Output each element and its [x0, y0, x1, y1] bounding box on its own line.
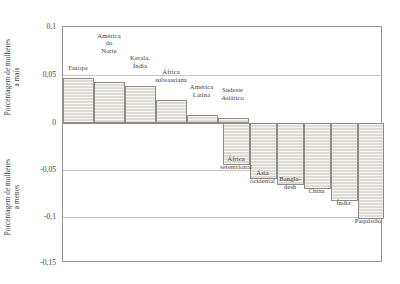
bar-label-line: Índia: [324, 199, 363, 207]
bar-label-line: Europa: [58, 64, 98, 72]
bar-label: SudesteAsiático: [207, 86, 258, 101]
plot-area: [62, 26, 382, 262]
bar-label-line: Asiático: [207, 94, 258, 102]
bar: [94, 82, 125, 123]
bar: [187, 115, 218, 123]
bar-label-line: China: [296, 187, 337, 195]
waterfall-gender-ratio-chart: Porcentagem de mulheres a mais Porcentag…: [0, 0, 400, 284]
bar-label-line: Kerala,: [119, 54, 161, 62]
y-tick-label: 0,1: [16, 22, 56, 31]
gridline: [63, 75, 383, 76]
y-tick-label: -0,15: [16, 258, 56, 267]
y-tick-label: 0: [16, 118, 56, 127]
bar-label-line: África: [208, 155, 264, 163]
gridline: [63, 217, 383, 218]
y-axis-title-lower-line2: a menos: [13, 185, 22, 209]
bar-label: China: [296, 187, 337, 195]
y-tick-label: -0,05: [16, 165, 56, 174]
y-axis-title-lower-line1: Porcentagem de mulheres: [4, 159, 13, 236]
bar-label-line: América: [88, 32, 130, 40]
bar-label: Índia: [324, 199, 363, 207]
bar: [63, 78, 94, 123]
bar-label-line: do: [88, 39, 130, 47]
y-tick-label: -0,1: [16, 212, 56, 221]
bar: [156, 100, 187, 123]
bar-label-line: África: [142, 68, 200, 76]
bar-label-line: Bangla-: [268, 175, 312, 183]
y-tick-label: 0,05: [16, 70, 56, 79]
bar-label: Áfricasubsaariana: [142, 68, 200, 83]
bar: [125, 86, 156, 123]
bar-label-line: Paquistão: [342, 217, 394, 225]
y-axis-title-upper-line1: Porcentagem de mulheres: [4, 39, 13, 116]
bar-label: AméricadoNorte: [88, 32, 130, 55]
bar-label: Paquistão: [342, 217, 394, 225]
bar-label: Áfricasetentrional: [208, 155, 264, 170]
bar-label: Kerala,Índia: [119, 54, 161, 69]
bar-label: Europa: [58, 64, 98, 72]
y-axis-title-lower: Porcentagem de mulheres a menos: [4, 132, 21, 262]
bar-label-line: Sudeste: [207, 86, 258, 94]
